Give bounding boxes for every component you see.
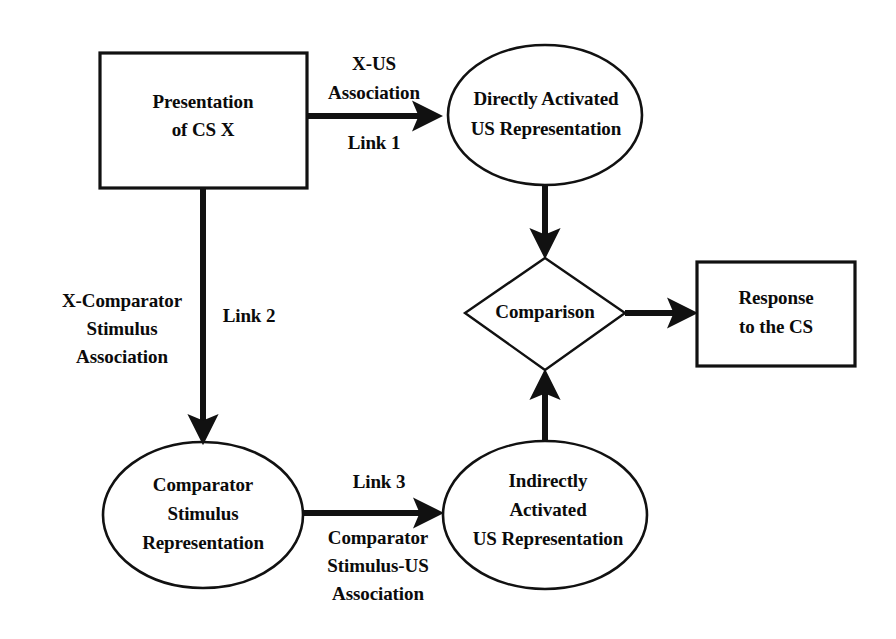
node-label-indirectly-activated-line2: Activated <box>509 499 587 520</box>
diagram-root: Presentation of CS X Directly Activated … <box>0 0 896 639</box>
edge-label-comparator-stimulus-us-line2: Stimulus-US <box>327 555 428 576</box>
diagram-canvas: Presentation of CS X Directly Activated … <box>0 0 896 639</box>
node-label-directly-activated-line1: Directly Activated <box>473 88 619 109</box>
node-label-response-to-the-cs-line1: Response <box>738 287 813 308</box>
edge-label-x-comparator-line1: X-Comparator <box>62 290 183 311</box>
edge-label-link1: Link 1 <box>348 132 401 153</box>
node-label-comparison: Comparison <box>495 301 595 322</box>
edge-label-x-comparator-line3: Association <box>76 346 168 367</box>
edge-label-x-comparator-line2: Stimulus <box>86 318 157 339</box>
edge-label-comparator-stimulus-us-line3: Association <box>332 583 424 604</box>
node-label-directly-activated-line2: US Representation <box>471 118 622 139</box>
node-label-presentation-of-cs-x-line2: of CS X <box>172 119 235 140</box>
edge-label-x-us-association-line1: X-US <box>352 53 396 74</box>
node-label-indirectly-activated-line3: US Representation <box>473 528 624 549</box>
node-label-comparator-stimulus-line1: Comparator <box>153 474 254 495</box>
node-response-to-the-cs <box>697 262 855 366</box>
node-label-comparator-stimulus-line2: Stimulus <box>167 503 238 524</box>
node-label-comparator-stimulus-line3: Representation <box>142 532 264 553</box>
node-label-response-to-the-cs-line2: to the CS <box>739 316 813 337</box>
node-label-presentation-of-cs-x-line1: Presentation <box>153 91 254 112</box>
edge-label-link2: Link 2 <box>223 305 276 326</box>
edge-label-comparator-stimulus-us-line1: Comparator <box>328 527 429 548</box>
node-directly-activated-us-representation <box>448 45 642 185</box>
edge-label-x-us-association-line2: Association <box>328 82 420 103</box>
edge-label-link3: Link 3 <box>353 471 406 492</box>
node-label-indirectly-activated-line1: Indirectly <box>509 470 588 491</box>
